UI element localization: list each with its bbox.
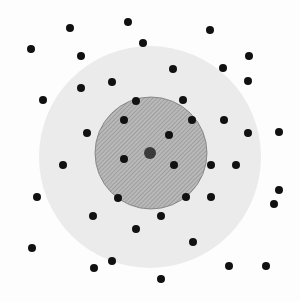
point [182,193,190,201]
point [157,275,165,283]
point [77,84,85,92]
point [108,78,116,86]
point [262,262,270,270]
point [89,212,97,220]
point [275,128,283,136]
point [114,194,122,202]
point [275,186,283,194]
point [165,131,173,139]
point [245,52,253,60]
concentric-circle-point-diagram [0,0,300,302]
point [157,212,165,220]
point [206,26,214,34]
point [33,193,41,201]
point [179,96,187,104]
point [120,155,128,163]
point [90,264,98,272]
point [188,116,196,124]
point [132,225,140,233]
diagram-canvas [0,0,300,302]
point [232,161,240,169]
center-point [144,147,156,159]
point [207,161,215,169]
point [66,24,74,32]
point [244,77,252,85]
point [39,96,47,104]
point [27,45,35,53]
point [169,65,177,73]
point [83,129,91,137]
point [108,257,116,265]
point [28,244,36,252]
point [170,161,178,169]
point [207,193,215,201]
point [59,161,67,169]
point [139,39,147,47]
point [270,200,278,208]
point [189,238,197,246]
point [225,262,233,270]
point [120,116,128,124]
point [77,52,85,60]
point [220,116,228,124]
point [219,64,227,72]
point [132,97,140,105]
point [244,129,252,137]
point [124,18,132,26]
